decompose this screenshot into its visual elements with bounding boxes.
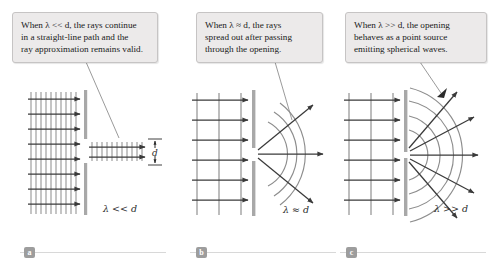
panel-a-artwork bbox=[28, 90, 162, 215]
panel-c-incoming-rays bbox=[344, 100, 400, 200]
callout-pointer-a bbox=[86, 62, 119, 138]
panel-b-incoming-rays bbox=[192, 100, 248, 200]
panel-b-artwork bbox=[192, 90, 323, 216]
panel-c-barrier bbox=[404, 90, 407, 216]
panel-a-wavefronts bbox=[31, 92, 76, 214]
panel-b-barrier bbox=[252, 90, 255, 216]
index-rule-c bbox=[340, 252, 486, 253]
callout-a-line3: ray approximation remains valid. bbox=[21, 44, 143, 54]
callout-box-c: When λ >> d, the opening behaves as a po… bbox=[345, 12, 487, 63]
diffraction-figure: λ << d λ ≈ d λ >> d d When λ << d, the r… bbox=[0, 0, 499, 272]
callout-box-b: When λ ≈ d, the rays spread out after pa… bbox=[196, 12, 323, 63]
panel-c-wavefronts bbox=[349, 93, 393, 215]
panel-a-transmitted-wavefronts bbox=[92, 142, 142, 161]
callout-a-line1: When λ << d, the rays continue bbox=[21, 20, 137, 30]
panel-c-outgoing-rays bbox=[409, 92, 478, 218]
callout-c-line2: behaves as a point source bbox=[354, 32, 447, 42]
panel-c-artwork bbox=[344, 88, 478, 222]
index-badge-c: c bbox=[346, 247, 357, 258]
index-badge-b: b bbox=[196, 247, 207, 258]
callout-c-line3: emitting spherical waves. bbox=[354, 44, 448, 54]
index-rule-b bbox=[190, 252, 336, 253]
panel-a-barrier bbox=[84, 90, 87, 215]
panel-a-condition-label: λ << d bbox=[102, 203, 137, 214]
index-rule-a bbox=[20, 252, 166, 253]
callout-b-line2: spread out after passing bbox=[205, 32, 292, 42]
panel-c-condition-label: λ >> d bbox=[433, 203, 468, 214]
callout-b-line3: through the opening. bbox=[205, 44, 281, 54]
panel-b-condition-label: λ ≈ d bbox=[282, 204, 309, 215]
callout-box-a: When λ << d, the rays continue in a stra… bbox=[12, 12, 158, 63]
callout-c-line1: When λ >> d, the opening bbox=[354, 20, 450, 30]
callout-b-line1: When λ ≈ d, the rays bbox=[205, 20, 281, 30]
callout-a-line2: in a straight-line path and the bbox=[21, 32, 128, 42]
panel-b-wavefronts bbox=[197, 93, 241, 215]
panel-a-slit-label: d bbox=[152, 148, 158, 158]
panel-b-outgoing-rays bbox=[258, 105, 323, 203]
index-badge-a: a bbox=[24, 247, 35, 258]
